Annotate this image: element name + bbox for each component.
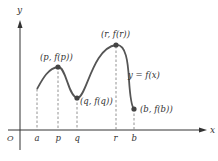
origin-label: O (7, 134, 14, 143)
point-label-p: (p, f(p)) (40, 52, 73, 62)
tick-label-q: q (75, 133, 81, 143)
y-axis-arrow-icon (18, 20, 23, 28)
x-axis-label: x (210, 125, 215, 135)
point-label-r: (r, f(r)) (101, 29, 130, 39)
function-graph: y x O (p, f(p)) (q, f(q)) (r, f(r)) (b, … (0, 0, 218, 161)
point-b (131, 106, 136, 111)
tick-label-a: a (35, 133, 40, 143)
point-r (113, 42, 118, 47)
x-axis-arrow-icon (199, 128, 207, 133)
tick-label-b: b (132, 133, 137, 143)
point-label-b: (b, f(b)) (140, 104, 173, 114)
point-p (55, 64, 60, 69)
point-label-q: (q, f(q)) (80, 96, 113, 106)
y-axis-label: y (16, 5, 23, 15)
tick-label-r: r (114, 133, 119, 143)
point-q (74, 95, 79, 100)
curve-label: y = f(x) (127, 70, 160, 80)
tick-label-p: p (56, 133, 62, 143)
